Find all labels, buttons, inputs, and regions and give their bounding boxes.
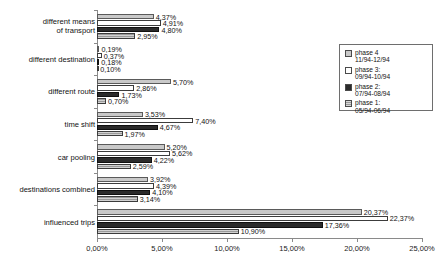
bar-group: 5,20%5,62%4,22%2,59% [97, 144, 422, 169]
bar-value-label: 0,10% [98, 64, 120, 73]
legend-swatch-icon [345, 50, 352, 57]
bar-row: 5,62% [97, 151, 422, 156]
bar-row: 2,95% [97, 33, 422, 38]
y-axis-tick [94, 75, 98, 76]
legend-item[interactable]: phase 4 11/94-12/94 [345, 49, 428, 64]
bar [97, 33, 135, 38]
bar-value-label: 2,95% [135, 32, 157, 41]
legend-label: phase 4 11/94-12/94 [355, 49, 390, 64]
bar-group: 20,37%22,37%17,36%10,90% [97, 209, 422, 234]
x-axis-line [97, 238, 422, 239]
x-axis-tick [162, 238, 163, 242]
bar [97, 144, 165, 149]
bar [97, 98, 106, 103]
legend-item[interactable]: phase 3: 09/94-10/94 [345, 66, 428, 81]
legend-swatch-icon [345, 100, 352, 107]
x-axis-tick-label: 5,00% [151, 244, 172, 253]
y-axis-tick [94, 10, 98, 11]
category-label: time shift [1, 120, 95, 129]
bar-row: 3,14% [97, 196, 422, 201]
bar [97, 20, 161, 25]
legend-swatch-icon [345, 84, 352, 91]
bar-chart: different means of transportdifferent de… [0, 0, 440, 262]
bar [97, 164, 131, 169]
x-axis-tick-label: 0,00% [86, 244, 107, 253]
bar [97, 229, 239, 234]
category-label: car pooling [1, 152, 95, 161]
x-axis-tick [227, 238, 228, 242]
bar-row: 4,91% [97, 20, 422, 25]
x-axis-tick [422, 238, 423, 242]
bar-row: 20,37% [97, 209, 422, 214]
y-axis-tick [94, 173, 98, 174]
bar [97, 209, 362, 214]
bar-row: 10,90% [97, 229, 422, 234]
bar-value-label: 2,59% [131, 162, 153, 171]
y-axis-tick [94, 43, 98, 44]
category-label: influenced trips [1, 217, 95, 226]
category-label: different route [1, 87, 95, 96]
bar-value-label: 0,70% [106, 97, 128, 106]
chart-legend: phase 4 11/94-12/94phase 3: 09/94-10/94p… [339, 44, 433, 111]
bar-row: 4,39% [97, 183, 422, 188]
bar [97, 112, 143, 117]
x-axis-tick [357, 238, 358, 242]
legend-label: phase 1: 05/94-06/94 [355, 99, 390, 114]
bar-row: 22,37% [97, 216, 422, 221]
x-axis-tick [97, 238, 98, 242]
bar-value-label: 10,90% [239, 227, 265, 236]
bar [97, 131, 123, 136]
x-axis-tick-label: 10,00% [214, 244, 239, 253]
category-label: different destination [1, 54, 95, 63]
x-axis-tick-label: 20,00% [344, 244, 369, 253]
y-axis-tick [94, 140, 98, 141]
bar-value-label: 1,97% [123, 129, 145, 138]
bar-group: 3,92%4,39%4,10%3,14% [97, 177, 422, 202]
category-axis-labels: different means of transportdifferent de… [0, 10, 95, 238]
category-label: destinations combined [1, 185, 95, 194]
bar [97, 222, 323, 227]
bar-row: 7,40% [97, 118, 422, 123]
bar-row: 4,37% [97, 14, 422, 19]
bar-group: 3,53%7,40%4,67%1,97% [97, 112, 422, 137]
bar-row: 4,67% [97, 125, 422, 130]
bar-row: 5,20% [97, 144, 422, 149]
bar-row: 1,97% [97, 131, 422, 136]
legend-swatch-icon [345, 67, 352, 74]
bar [97, 196, 138, 201]
category-label: different means of transport [1, 17, 95, 35]
bar-row: 3,92% [97, 177, 422, 182]
legend-item[interactable]: phase 1: 05/94-06/94 [345, 99, 428, 114]
bar [97, 14, 154, 19]
x-axis-tick [292, 238, 293, 242]
x-axis-tick-label: 25,00% [409, 244, 434, 253]
legend-item[interactable]: phase 2: 07/94-08/94 [345, 83, 428, 98]
bar-row: 2,59% [97, 164, 422, 169]
legend-label: phase 2: 07/94-08/94 [355, 83, 390, 98]
legend-label: phase 3: 09/94-10/94 [355, 66, 390, 81]
y-axis-tick [94, 108, 98, 109]
bar [97, 177, 148, 182]
y-axis-tick [94, 205, 98, 206]
x-axis-tick-label: 15,00% [279, 244, 304, 253]
bar [97, 183, 154, 188]
bar-group: 4,37%4,91%4,80%2,95% [97, 14, 422, 39]
bar-value-label: 3,14% [138, 194, 160, 203]
